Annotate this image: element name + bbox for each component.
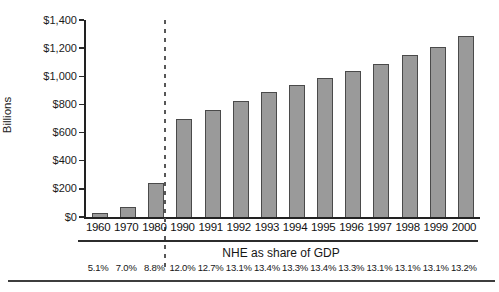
bar-slot-1999 [424,20,452,217]
year-label-1993: 1993 [253,221,281,233]
bar-1970 [120,207,136,217]
nhe-bar-chart: Billions $0$200$400$600$800$1,000$1,200$… [0,0,499,292]
bar-1994 [289,85,305,217]
ytick-label-1000: $1,000 [0,70,77,83]
gdp-share-2000: 13.2% [450,262,478,273]
ytick-label-600: $600 [0,126,77,139]
bar-slot-1998 [396,20,424,217]
bar-1997 [373,64,389,217]
year-label-1996: 1996 [337,221,365,233]
year-label-1992: 1992 [225,221,253,233]
year-label-1990: 1990 [168,221,196,233]
gdp-share-1998: 13.1% [394,262,422,273]
gdp-share-1993: 13.4% [253,262,281,273]
years-underline-rule [78,240,478,242]
ytick-label-400: $400 [0,154,77,167]
plot-area [84,20,480,219]
year-label-1999: 1999 [422,221,450,233]
year-label-1997: 1997 [365,221,393,233]
gdp-share-1994: 13.3% [281,262,309,273]
bar-1998 [402,55,418,217]
year-label-1980: 1980 [140,221,168,233]
bar-1995 [317,78,333,217]
gdp-share-values-row: 5.1%7.0%8.8%12.0%12.7%13.1%13.4%13.3%13.… [84,262,478,273]
gdp-share-1980: 8.8% [140,262,168,273]
bar-slot-2000 [452,20,480,217]
year-label-2000: 2000 [450,221,478,233]
bar-slot-1980 [142,20,170,217]
gdp-share-1990: 12.0% [168,262,196,273]
y-axis-title: Billions [1,75,13,155]
gdp-share-1995: 13.4% [309,262,337,273]
bar-1980 [148,183,164,217]
gdp-share-1992: 13.1% [225,262,253,273]
bar-1999 [430,47,446,217]
bar-slot-1997 [367,20,395,217]
bar-1990 [176,119,192,217]
gdp-share-1960: 5.1% [84,262,112,273]
bar-slot-1996 [339,20,367,217]
bar-slot-1990 [170,20,198,217]
bar-2000 [458,36,474,217]
gdp-share-1997: 13.1% [365,262,393,273]
ytick-label-800: $800 [0,98,77,111]
year-label-1995: 1995 [309,221,337,233]
bar-slot-1992 [227,20,255,217]
gdp-share-1970: 7.0% [112,262,140,273]
bar-1992 [233,101,249,217]
bar-slot-1991 [199,20,227,217]
bar-slot-1995 [311,20,339,217]
gdp-share-1991: 12.7% [197,262,225,273]
year-label-1991: 1991 [197,221,225,233]
year-label-1960: 1960 [84,221,112,233]
ytick-label-200: $200 [0,182,77,195]
ytick-label-1400: $1,400 [0,14,77,27]
bar-slot-1993 [255,20,283,217]
year-label-1994: 1994 [281,221,309,233]
gdp-share-caption: NHE as share of GDP [84,246,478,260]
bar-1996 [345,71,361,217]
bar-1993 [261,92,277,217]
year-label-1970: 1970 [112,221,140,233]
bar-slot-1994 [283,20,311,217]
gdp-share-1996: 13.3% [337,262,365,273]
bar-slot-1970 [114,20,142,217]
bar-1991 [205,110,221,217]
ytick-label-0: $0 [0,211,77,224]
ytick-label-1200: $1,200 [0,42,77,55]
gdp-share-1999: 13.1% [422,262,450,273]
bottom-separator-rule [8,280,495,282]
bar-1960 [92,213,108,217]
bar-slot-1960 [86,20,114,217]
year-label-1998: 1998 [394,221,422,233]
x-axis-year-labels: 1960197019801990199119921993199419951996… [84,221,478,233]
